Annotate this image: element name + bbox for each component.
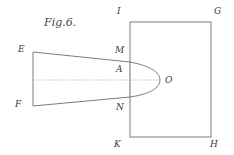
figure-6-diagram: Fig.6. E F I G M A O N K H <box>0 0 234 155</box>
label-G: G <box>214 7 221 16</box>
label-O: O <box>165 76 172 85</box>
label-K: K <box>114 140 121 149</box>
curve-MON <box>130 62 160 97</box>
label-H: H <box>210 140 218 149</box>
diagram-canvas <box>0 0 234 155</box>
label-I: I <box>117 7 121 16</box>
label-A: A <box>116 65 123 74</box>
figure-title: Fig.6. <box>44 17 76 28</box>
label-F: F <box>15 100 21 109</box>
label-M: M <box>115 46 124 55</box>
label-N: N <box>116 103 124 112</box>
label-E: E <box>18 45 25 54</box>
